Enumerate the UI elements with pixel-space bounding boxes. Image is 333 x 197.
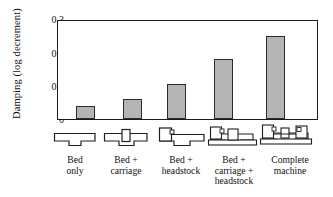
category-line: machine (254, 166, 326, 177)
y-axis-title: Damping (log decrement) (11, 9, 25, 119)
damping-bar-chart-figure: Damping (log decrement) 0 0.1 0.2 0.3 (0, 0, 333, 197)
category-label-complete-machine: Complete machine (254, 155, 326, 176)
bar-bed-headstock (167, 84, 186, 119)
plot-area (57, 20, 318, 120)
bed-carriage-headstock-diagram (207, 122, 259, 148)
bar-bed-only (76, 106, 95, 119)
bar-bed-carriage (123, 99, 142, 119)
bed-carriage-diagram (103, 128, 149, 148)
bar-bed-carriage-headstock (214, 59, 233, 119)
category-line: Complete (254, 155, 326, 166)
category-line: headstock (198, 176, 270, 187)
bed-only-diagram (53, 131, 97, 148)
complete-machine-diagram (259, 121, 313, 148)
bar-complete-machine (266, 36, 285, 119)
bed-headstock-diagram (156, 126, 206, 148)
